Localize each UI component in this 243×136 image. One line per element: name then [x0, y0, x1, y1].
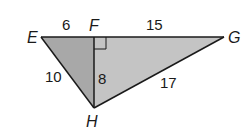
length-label-fh: 8: [98, 70, 106, 87]
vertex-label-h: H: [86, 113, 98, 130]
length-label-gh: 17: [160, 74, 177, 91]
length-label-fg: 15: [146, 16, 163, 33]
length-label-eh: 10: [45, 68, 62, 85]
vertex-label-g: G: [228, 29, 240, 46]
length-label-ef: 6: [62, 16, 70, 33]
triangle-diagram: E F G H 6 15 10 8 17: [0, 0, 243, 136]
vertex-label-f: F: [89, 17, 100, 34]
vertex-label-e: E: [27, 29, 38, 46]
